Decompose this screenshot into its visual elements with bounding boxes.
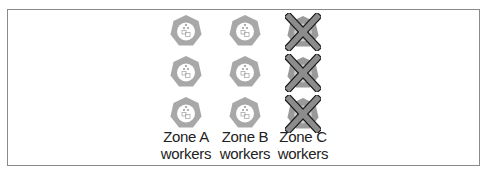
zone-c-label: Zone C workers bbox=[268, 128, 338, 162]
worker-node-icon bbox=[228, 96, 262, 130]
worker-node-icon bbox=[169, 96, 203, 130]
worker-node-icon bbox=[228, 55, 262, 89]
zone-a-node-3 bbox=[169, 96, 203, 130]
worker-node-icon bbox=[228, 14, 262, 48]
zone-b-node-3 bbox=[228, 96, 262, 130]
failed-node-icon bbox=[285, 54, 321, 92]
zone-a-node-2 bbox=[169, 55, 203, 89]
zone-b-node-1 bbox=[228, 14, 262, 48]
worker-node-icon bbox=[169, 14, 203, 48]
zone-a-node-1 bbox=[169, 14, 203, 48]
zone-c-node-2-failed bbox=[285, 54, 321, 92]
zone-c-label-line2: workers bbox=[268, 145, 338, 162]
zone-c-label-line1: Zone C bbox=[268, 128, 338, 145]
worker-node-icon bbox=[169, 55, 203, 89]
zone-b-node-2 bbox=[228, 55, 262, 89]
failed-node-icon bbox=[285, 13, 321, 51]
zone-c-node-1-failed bbox=[285, 13, 321, 51]
